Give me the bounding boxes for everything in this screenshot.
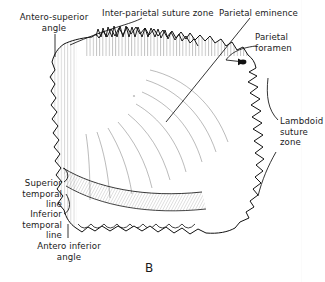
label-inferior-temporal-line: Inferior temporal line (4, 209, 62, 241)
figure-letter: B (141, 261, 157, 275)
label-antero-superior-angle: Antero-superior angle (8, 12, 100, 33)
label-inter-parietal-suture-zone: Inter-parietal suture zone (102, 8, 226, 19)
bone-body (28, 24, 276, 248)
label-antero-inferior-angle: Antero inferior angle (22, 241, 116, 262)
label-parietal-eminence: Parietal eminence (219, 8, 313, 19)
parietal-eminence-center (133, 95, 135, 97)
label-parietal-foramen: Parietal foramen (255, 32, 317, 53)
label-lambdoid-suture-zone: Lambdoid suture zone (280, 116, 325, 148)
leader-lambdoid-upper (267, 78, 278, 120)
label-superior-temporal-line: Superior temporal line (4, 178, 62, 210)
